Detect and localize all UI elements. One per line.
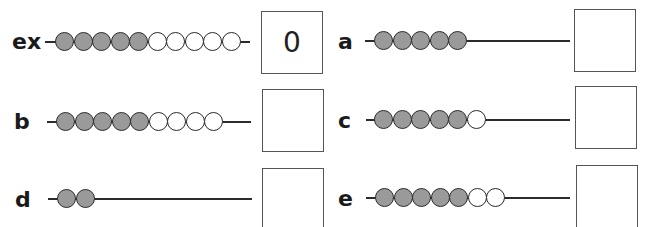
- filled-bead: [412, 188, 431, 207]
- filled-bead: [111, 32, 130, 51]
- filled-bead: [431, 188, 450, 207]
- empty-bead: [185, 32, 204, 51]
- empty-bead: [186, 112, 205, 131]
- filled-bead: [92, 32, 111, 51]
- answer-box[interactable]: [574, 9, 636, 72]
- empty-bead: [486, 188, 505, 207]
- filled-bead: [57, 189, 76, 208]
- empty-bead: [204, 112, 223, 131]
- filled-bead: [430, 31, 449, 50]
- filled-bead: [449, 188, 468, 207]
- filled-bead: [411, 31, 430, 50]
- empty-bead: [149, 112, 168, 131]
- filled-bead: [430, 110, 449, 129]
- filled-bead: [55, 32, 74, 51]
- empty-bead: [203, 32, 222, 51]
- empty-bead: [148, 32, 167, 51]
- item-label: a: [338, 31, 353, 53]
- empty-bead: [467, 110, 486, 129]
- bead-row: [56, 112, 223, 131]
- bead-row: [374, 110, 485, 129]
- empty-bead: [222, 32, 241, 51]
- filled-bead: [129, 32, 148, 51]
- filled-bead: [393, 110, 412, 129]
- filled-bead: [448, 110, 467, 129]
- answer-box[interactable]: [262, 168, 324, 227]
- empty-bead: [468, 188, 487, 207]
- bead-row: [55, 32, 240, 51]
- bead-row: [375, 188, 505, 207]
- filled-bead: [130, 112, 149, 131]
- item-label: b: [14, 111, 30, 133]
- filled-bead: [375, 188, 394, 207]
- filled-bead: [56, 112, 75, 131]
- filled-bead: [394, 188, 413, 207]
- answer-box[interactable]: [262, 89, 324, 152]
- filled-bead: [374, 31, 393, 50]
- filled-bead: [393, 31, 412, 50]
- bead-row: [374, 31, 467, 50]
- filled-bead: [448, 31, 467, 50]
- filled-bead: [93, 112, 112, 131]
- answer-box[interactable]: [575, 86, 637, 149]
- answer-box[interactable]: 0: [261, 11, 323, 74]
- filled-bead: [76, 189, 95, 208]
- filled-bead: [112, 112, 131, 131]
- item-label: ex: [12, 31, 41, 53]
- empty-bead: [166, 32, 185, 51]
- filled-bead: [74, 32, 93, 51]
- answer-box[interactable]: [576, 165, 638, 227]
- filled-bead: [75, 112, 94, 131]
- item-label: e: [338, 188, 353, 210]
- bead-row: [57, 189, 94, 208]
- item-label: c: [338, 110, 351, 132]
- empty-bead: [167, 112, 186, 131]
- filled-bead: [411, 110, 430, 129]
- item-label: d: [15, 189, 31, 211]
- filled-bead: [374, 110, 393, 129]
